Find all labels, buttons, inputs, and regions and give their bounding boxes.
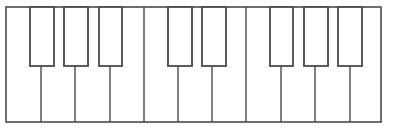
black-key bbox=[168, 7, 192, 66]
piano-keyboard-drawing bbox=[0, 0, 396, 134]
piano-keyboard-diagram bbox=[0, 0, 396, 134]
black-key bbox=[30, 7, 54, 66]
black-key bbox=[202, 7, 226, 66]
black-key bbox=[64, 7, 88, 66]
black-key bbox=[99, 7, 122, 66]
black-key bbox=[304, 7, 328, 66]
black-key bbox=[270, 7, 293, 66]
black-key bbox=[338, 7, 362, 66]
